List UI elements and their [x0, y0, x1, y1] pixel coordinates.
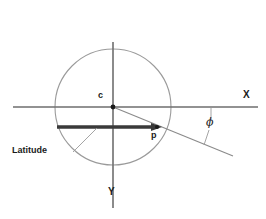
- latitude-diagram: X Y c p ϕ Latitude: [0, 0, 266, 219]
- point-p-label: p: [151, 131, 157, 140]
- x-axis-label: X: [243, 90, 250, 100]
- latitude-ray: [113, 107, 233, 156]
- point-p-dot: [155, 125, 159, 129]
- y-axis-label: Y: [108, 187, 115, 197]
- center-dot: [111, 105, 116, 110]
- diagram-canvas: [0, 0, 266, 219]
- latitude-leader-line: [73, 128, 97, 152]
- center-label: c: [98, 91, 103, 100]
- latitude-label: Latitude: [12, 146, 47, 155]
- angle-phi-label: ϕ: [206, 117, 214, 128]
- angle-tick-lower: [204, 130, 209, 145]
